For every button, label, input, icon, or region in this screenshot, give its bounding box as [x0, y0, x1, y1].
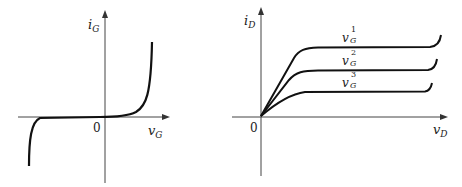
left-y-label: iG	[88, 18, 99, 34]
curve-label-vg2: v2G	[342, 55, 349, 67]
right-x-label: vD	[433, 123, 448, 139]
figure: iG vG 0 iD vD 0 v1G v2G v3G	[0, 0, 462, 187]
curve-label-vg3: v3G	[342, 77, 349, 89]
right-plot	[232, 11, 444, 176]
curve-vg2	[261, 59, 437, 116]
curve-label-vg1: v1G	[342, 32, 349, 44]
plots-svg	[0, 0, 462, 187]
left-origin-label: 0	[93, 121, 101, 135]
left-plot	[18, 14, 166, 183]
right-origin-label: 0	[250, 121, 258, 135]
left-iv-curve	[29, 42, 152, 166]
right-y-label: iD	[244, 14, 255, 30]
left-x-label: vG	[148, 124, 163, 140]
